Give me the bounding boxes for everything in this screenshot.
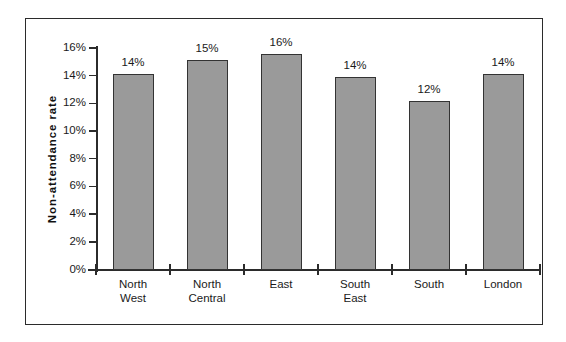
y-axis-tick bbox=[89, 103, 98, 104]
bar-value-label: 14% bbox=[315, 59, 395, 71]
chart-figure: 0%2%4%6%8%10%12%14%16% Non-attendance ra… bbox=[0, 0, 566, 342]
x-axis-category-label-line: East bbox=[305, 291, 405, 305]
x-axis-tick bbox=[539, 264, 540, 275]
bar-value-label: 15% bbox=[167, 42, 247, 54]
bar-value-label: 16% bbox=[241, 36, 321, 48]
x-axis-tick bbox=[95, 264, 96, 275]
y-axis-tick bbox=[89, 186, 98, 187]
x-axis-line bbox=[88, 269, 540, 271]
bar-value-label: 14% bbox=[93, 56, 173, 68]
x-axis-tick bbox=[243, 264, 244, 275]
x-axis-tick bbox=[391, 264, 392, 275]
bar-group bbox=[261, 48, 302, 270]
bar[interactable] bbox=[409, 101, 450, 270]
bar[interactable] bbox=[261, 54, 302, 270]
bar[interactable] bbox=[187, 60, 228, 269]
x-axis-tick bbox=[317, 264, 318, 275]
x-axis-category-label-line: Central bbox=[157, 291, 257, 305]
y-axis-tick bbox=[89, 75, 98, 76]
bar-group bbox=[335, 48, 376, 270]
y-axis-title: Non-attendance rate bbox=[43, 48, 61, 270]
bar[interactable] bbox=[335, 77, 376, 269]
y-axis-tick bbox=[89, 158, 98, 159]
bar-value-label: 12% bbox=[389, 83, 469, 95]
y-axis-tick bbox=[89, 47, 98, 48]
bar-value-label: 14% bbox=[463, 56, 543, 68]
bar-group bbox=[483, 48, 524, 270]
bar-group bbox=[113, 48, 154, 270]
bar-group bbox=[409, 48, 450, 270]
y-axis-tick bbox=[89, 130, 98, 131]
bar-group bbox=[187, 48, 228, 270]
x-axis-tick bbox=[169, 264, 170, 275]
y-axis-tick bbox=[89, 213, 98, 214]
bar[interactable] bbox=[113, 74, 154, 269]
x-axis-tick bbox=[465, 264, 466, 275]
bar[interactable] bbox=[483, 74, 524, 269]
y-axis-tick bbox=[89, 241, 98, 242]
x-axis-category-label: London bbox=[453, 277, 553, 291]
x-axis-category-label-line: London bbox=[453, 277, 553, 291]
